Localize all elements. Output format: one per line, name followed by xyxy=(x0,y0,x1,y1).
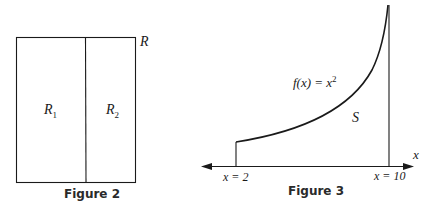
diagram-canvas xyxy=(0,0,437,211)
right-bound-label: x = 10 xyxy=(374,169,405,184)
figure2-caption: Figure 2 xyxy=(64,187,120,201)
figure3-caption: Figure 3 xyxy=(288,184,344,198)
region-r-label: R xyxy=(140,34,149,50)
region-s-label: S xyxy=(352,110,359,126)
left-bound-label: x = 2 xyxy=(223,170,248,185)
function-label: f(x) = x2 xyxy=(293,74,337,91)
region-r2-label: R2 xyxy=(106,102,119,120)
region-divider-line xyxy=(86,38,87,183)
x-axis-left-arrow-icon xyxy=(201,163,212,170)
region-r1-label: R1 xyxy=(44,102,57,120)
x-axis-label: x xyxy=(413,147,419,163)
